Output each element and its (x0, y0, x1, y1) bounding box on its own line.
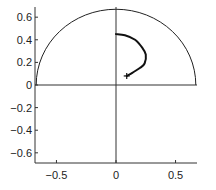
y-tick-label: 0 (26, 79, 32, 91)
polar-trajectory-chart: 0.60.40.20−0.2−0.4−0.6 −0.500.5 (0, 0, 216, 190)
y-tick-label: 0.4 (17, 34, 32, 46)
y-tick-label: −0.6 (10, 147, 32, 159)
y-tick-label: 0.2 (17, 56, 32, 68)
x-axis: −0.500.5 (35, 160, 197, 181)
x-tick-label: 0.5 (168, 169, 183, 181)
y-tick-label: −0.2 (10, 102, 32, 114)
y-tick-label: 0.6 (17, 11, 32, 23)
y-axis: 0.60.40.20−0.2−0.4−0.6 (10, 7, 38, 163)
x-tick-label: 0 (113, 169, 119, 181)
trajectory-curve (116, 34, 146, 76)
y-tick-label: −0.4 (10, 124, 32, 136)
plot-area (35, 7, 197, 163)
x-tick-label: −0.5 (46, 169, 68, 181)
